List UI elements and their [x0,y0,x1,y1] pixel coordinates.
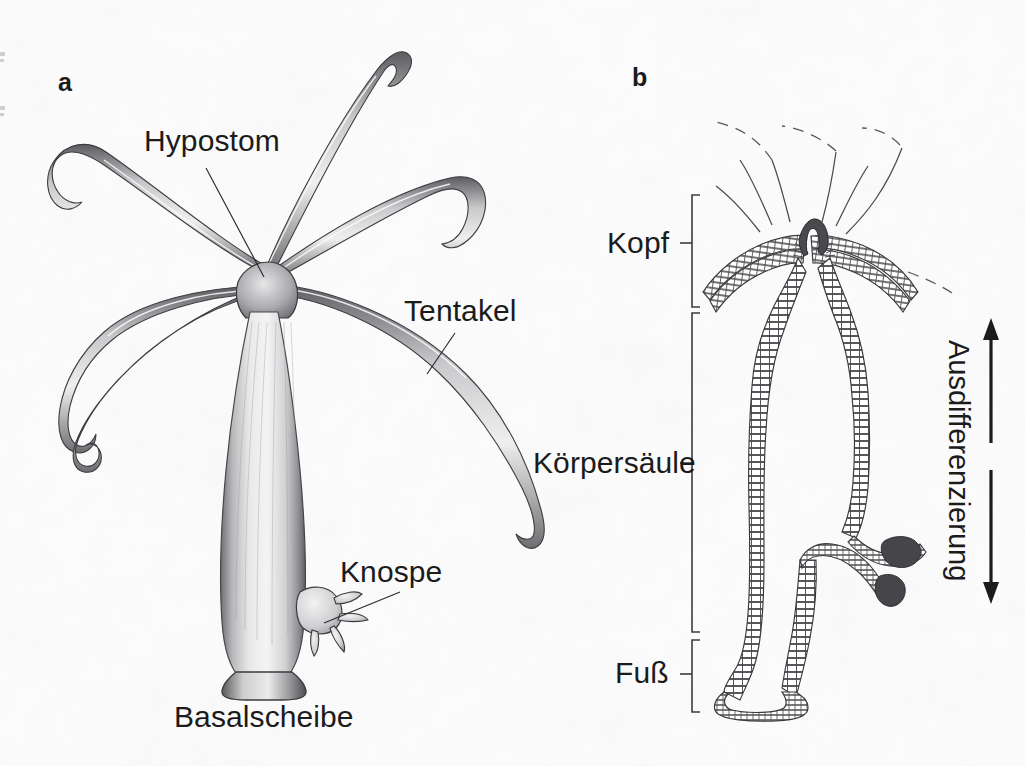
label-hypostom: Hypostom [144,126,280,156]
bracket-kopf [692,195,700,307]
label-koerpersaeule: Körpersäule [533,448,696,478]
arrow-up-head [983,318,999,340]
basal-disc [222,672,306,700]
tentacle [59,286,256,453]
panel-a-artwork [48,52,545,700]
tentacle [73,292,254,472]
label-kopf: Kopf [607,228,669,258]
panel-letter-b: b [632,65,647,90]
label-tentakel: Tentakel [404,296,517,326]
foot-schematic [714,692,808,721]
body-wall-right-lower [782,560,816,697]
body-wall-right [818,258,870,538]
bud-tip-dark [875,537,921,607]
label-basalscheibe: Basalscheibe [174,702,354,732]
label-ausdifferenzierung: Ausdifferenzierung [942,340,975,581]
bud [296,587,368,656]
leader-hypostom [206,168,264,277]
hypostome-cone [236,262,297,318]
figure-root: a b Hypostom Tentakel Knospe Basalscheib… [0,0,1025,766]
arrow-down-head [983,582,999,604]
label-knospe: Knospe [340,557,442,587]
figure-artwork [0,0,1025,766]
label-fuss: Fuß [615,658,669,688]
bracket-fuss [692,640,700,712]
differentiation-arrows [983,318,999,604]
panel-letter-a: a [58,70,72,95]
scan-edge-artifacts [0,52,5,116]
